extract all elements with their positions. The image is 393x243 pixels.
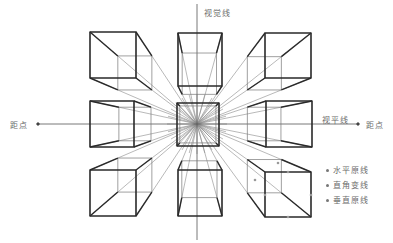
cube-back-face bbox=[118, 56, 152, 90]
cube-front-face bbox=[90, 32, 136, 78]
cube-depth-edge bbox=[217, 33, 223, 53]
cube-depth-edge bbox=[90, 101, 119, 107]
cube-front-face bbox=[265, 33, 311, 78]
legend-item: 垂直原线 bbox=[326, 193, 369, 208]
cube-depth-edge bbox=[90, 158, 118, 170]
bullet-icon bbox=[326, 184, 329, 187]
cube-depth-edge bbox=[217, 86, 223, 94]
cube-depth-edge bbox=[247, 33, 265, 57]
legend-label: 直角变线 bbox=[333, 178, 369, 193]
cube-depth-edge bbox=[136, 158, 152, 170]
cube-top-right bbox=[247, 33, 311, 90]
edge-marker bbox=[254, 179, 257, 182]
cube-depth-edge bbox=[136, 32, 152, 56]
cube-depth-edge bbox=[90, 192, 118, 216]
cube-bottom-center bbox=[178, 161, 222, 216]
bullet-icon bbox=[326, 169, 329, 172]
cube-depth-edge bbox=[281, 193, 311, 217]
cube-depth-edge bbox=[281, 33, 311, 57]
cube-depth-edge bbox=[247, 78, 265, 90]
cube-depth-edge bbox=[134, 101, 151, 107]
distance-point-right bbox=[357, 123, 360, 126]
edge-marker bbox=[277, 162, 280, 165]
cube-depth-edge bbox=[136, 78, 152, 90]
legend-label: 垂直原线 bbox=[333, 193, 369, 208]
cube-front-face bbox=[178, 33, 222, 86]
legend-item: 直角变线 bbox=[326, 178, 369, 193]
cube-top-left bbox=[90, 32, 152, 90]
cube-depth-edge bbox=[247, 101, 266, 107]
legend-label: 水平原线 bbox=[333, 163, 369, 178]
edge-marker bbox=[264, 194, 267, 197]
cube-front-face bbox=[265, 172, 311, 217]
cube-back-face bbox=[182, 53, 216, 94]
distance-point-left bbox=[37, 123, 40, 126]
cube-depth-edge bbox=[90, 32, 118, 56]
cube-depth-edge bbox=[281, 101, 312, 107]
edge-marker bbox=[287, 216, 290, 219]
cube-depth-edge bbox=[134, 141, 151, 147]
cube-depth-edge bbox=[281, 141, 312, 147]
horizon-line-label: 视平线 bbox=[322, 114, 349, 125]
distance-point-left-label: 距点 bbox=[10, 119, 28, 130]
cube-front-face bbox=[90, 170, 136, 216]
cube-depth-edge bbox=[281, 160, 311, 172]
cube-bottom-left bbox=[90, 158, 152, 216]
bullet-icon bbox=[326, 199, 329, 202]
cube-depth-edge bbox=[217, 161, 222, 170]
cube-depth-edge bbox=[136, 192, 152, 216]
vertical-line-label: 视觉线 bbox=[204, 7, 231, 18]
cube-back-face bbox=[118, 158, 152, 192]
cube-depth-edge bbox=[90, 141, 119, 147]
cube-depth-edge bbox=[90, 78, 118, 90]
cube-depth-edge bbox=[281, 78, 311, 90]
legend: 水平原线 直角变线 垂直原线 bbox=[326, 163, 369, 208]
construction-lines bbox=[90, 32, 312, 217]
edge-marker bbox=[310, 194, 313, 197]
cube-depth-edge bbox=[178, 161, 182, 170]
cube-bottom-right bbox=[247, 160, 311, 217]
cube-depth-edge bbox=[178, 86, 182, 94]
cube-depth-edge bbox=[247, 193, 265, 217]
distance-point-right-label: 距点 bbox=[366, 119, 384, 130]
cube-front-face bbox=[178, 170, 222, 216]
edge-marker bbox=[287, 171, 290, 174]
legend-item: 水平原线 bbox=[326, 163, 369, 178]
cube-depth-edge bbox=[247, 160, 265, 172]
